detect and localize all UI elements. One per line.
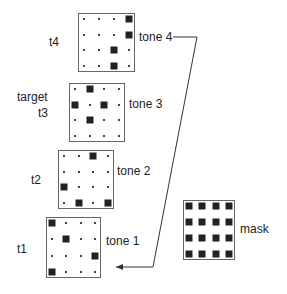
dot (118, 88, 120, 90)
filled-square (86, 86, 93, 93)
filled-square (126, 31, 133, 38)
filled-square (75, 200, 82, 207)
dot (128, 65, 130, 67)
dot (118, 135, 120, 137)
dot (92, 202, 94, 204)
dot (89, 104, 91, 106)
filled-square (186, 251, 193, 258)
filled-square (226, 235, 233, 242)
filled-square (199, 203, 206, 210)
filled-square (63, 236, 70, 243)
dot (83, 34, 85, 36)
dot (113, 34, 115, 36)
filled-square (92, 252, 99, 259)
dot (89, 135, 91, 137)
filled-square (226, 219, 233, 226)
dot (51, 255, 53, 257)
dot (78, 186, 80, 188)
filled-square (212, 235, 219, 242)
dot (103, 119, 105, 121)
filled-square (212, 251, 219, 258)
arrowhead-icon (116, 264, 123, 270)
dot (98, 18, 100, 20)
dot (78, 155, 80, 157)
filled-square (186, 219, 193, 226)
filled-square (226, 251, 233, 258)
dot (92, 171, 94, 173)
dot (113, 18, 115, 20)
grid-mask (183, 200, 235, 260)
dot (74, 119, 76, 121)
filled-square (49, 220, 56, 227)
filled-square (90, 153, 97, 160)
dot (83, 18, 85, 20)
filled-square (212, 203, 219, 210)
dot (80, 255, 82, 257)
dot (74, 135, 76, 137)
grid-t4 (78, 13, 135, 72)
dot (51, 238, 53, 240)
dot (63, 202, 65, 204)
dot (94, 222, 96, 224)
filled-square (61, 184, 68, 191)
filled-square (199, 235, 206, 242)
dot (92, 186, 94, 188)
filled-square (86, 117, 93, 124)
filled-square (72, 101, 79, 108)
dot (83, 49, 85, 51)
filled-square (186, 203, 193, 210)
dot (83, 65, 85, 67)
dot (103, 135, 105, 137)
dot (65, 222, 67, 224)
dot (118, 119, 120, 121)
filled-square (212, 219, 219, 226)
dot (63, 171, 65, 173)
filled-square (111, 63, 118, 70)
dot (107, 155, 109, 157)
dot (118, 104, 120, 106)
dot (107, 186, 109, 188)
filled-square (199, 219, 206, 226)
dot (103, 88, 105, 90)
dot (128, 49, 130, 51)
dot (78, 171, 80, 173)
grid-t2 (58, 150, 114, 209)
filled-square (105, 200, 112, 207)
grid-t1 (46, 217, 101, 278)
dot (98, 49, 100, 51)
grid-t3 (69, 83, 125, 142)
arrow-connector (0, 0, 287, 294)
filled-square (111, 47, 118, 54)
dot (80, 222, 82, 224)
dot (98, 34, 100, 36)
filled-square (101, 101, 108, 108)
dot (98, 65, 100, 67)
dot (63, 155, 65, 157)
dot (80, 271, 82, 273)
dot (94, 238, 96, 240)
filled-square (126, 16, 133, 23)
filled-square (226, 203, 233, 210)
dot (74, 88, 76, 90)
dot (65, 271, 67, 273)
filled-square (199, 251, 206, 258)
filled-square (186, 235, 193, 242)
filled-square (49, 269, 56, 276)
dot (94, 271, 96, 273)
dot (80, 238, 82, 240)
dot (65, 255, 67, 257)
dot (107, 171, 109, 173)
